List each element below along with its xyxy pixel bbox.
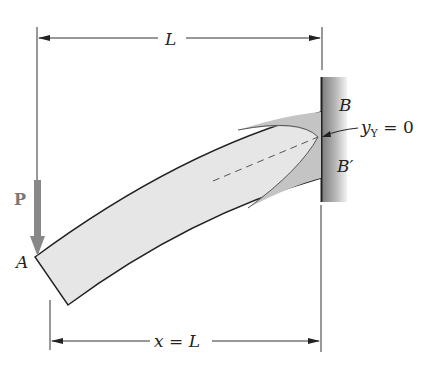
bottom-dimension-label: x = L — [154, 331, 200, 351]
point-b-label: B — [338, 95, 352, 115]
point-b-prime-label: B′ — [336, 156, 353, 176]
top-dimension-label: L — [164, 29, 176, 49]
point-a-label: A — [14, 252, 28, 272]
yield-label: yY = 0 — [360, 117, 414, 140]
arrowhead-left-icon — [38, 35, 50, 41]
arrowhead-right-icon — [309, 35, 321, 41]
beam — [35, 112, 321, 305]
load-arrow: P — [14, 180, 45, 256]
load-label: P — [14, 190, 26, 209]
cantilever-beam-diagram: L P A B B′ yY = 0 x = L — [0, 0, 440, 368]
arrowhead-right-icon — [308, 338, 320, 344]
arrowhead-left-icon — [51, 338, 63, 344]
